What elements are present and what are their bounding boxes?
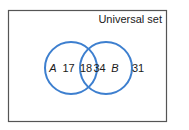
- set-a-name: A: [48, 62, 56, 74]
- venn-diagram: Universal set A 17 18 34 B 31: [0, 0, 189, 130]
- set-a-only-count: 17: [62, 62, 74, 74]
- universal-set-label: Universal set: [98, 13, 162, 25]
- set-b-only-count: 34: [93, 62, 105, 74]
- outside-count: 31: [132, 62, 144, 74]
- set-b-name: B: [111, 62, 118, 74]
- intersection-count: 18: [80, 62, 92, 74]
